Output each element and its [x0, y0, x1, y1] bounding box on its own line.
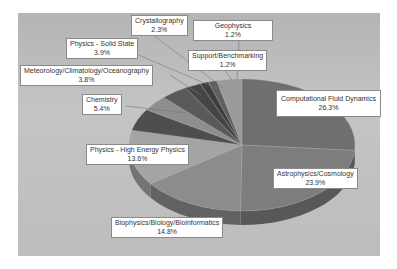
label-value: 1.2%	[192, 61, 263, 70]
label-value: 13.6%	[90, 155, 185, 164]
data-label-solid-state: Physics - Solid State 3.9%	[66, 38, 138, 59]
label-value: 5.4%	[86, 105, 118, 114]
label-text: Geophysics	[197, 22, 269, 31]
label-value: 26.3%	[281, 104, 376, 113]
data-label-meteorology: Meteorology/Climatology/Oceanography 3.8…	[20, 65, 153, 86]
label-text: Computational Fluid Dynamics	[281, 95, 376, 104]
label-text: Crystallography	[135, 17, 184, 26]
label-text: Biophysics/Biology/Bioinformatics	[115, 219, 219, 228]
label-value: 14.8%	[115, 228, 219, 237]
chart-area: Crystallography 2.3% Geophysics 1.2% Phy…	[18, 13, 380, 256]
data-label-cfd: Computational Fluid Dynamics 26.3%	[276, 90, 381, 117]
label-value: 1.2%	[197, 31, 269, 40]
data-label-geophysics: Geophysics 1.2%	[193, 20, 273, 41]
label-value: 3.8%	[24, 76, 149, 85]
data-label-biophysics: Biophysics/Biology/Bioinformatics 14.8%	[111, 217, 223, 238]
data-label-support-benchmarking: Support/Benchmarking 1.2%	[188, 50, 267, 71]
label-text: Meteorology/Climatology/Oceanography	[24, 67, 149, 76]
data-label-crystallography: Crystallography 2.3%	[131, 15, 188, 36]
label-text: Physics - High Energy Physics	[90, 146, 185, 155]
label-text: Chemistry	[86, 96, 118, 105]
data-label-chemistry: Chemistry 5.4%	[82, 94, 122, 115]
label-value: 3.9%	[70, 49, 134, 58]
label-text: Astrophysics/Cosmology	[277, 170, 354, 179]
label-text: Support/Benchmarking	[192, 52, 263, 61]
label-value: 23.9%	[277, 179, 354, 188]
label-text: Physics - Solid State	[70, 40, 134, 49]
data-label-astrophysics: Astrophysics/Cosmology 23.9%	[273, 168, 358, 189]
data-label-hep: Physics - High Energy Physics 13.6%	[86, 144, 189, 165]
label-value: 2.3%	[135, 26, 184, 35]
